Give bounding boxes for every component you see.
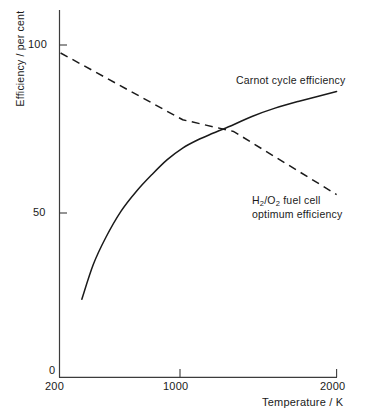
- x-axis-label: Temperature / K: [262, 396, 343, 410]
- annotation-fuelcell-h: H: [252, 194, 260, 206]
- x-tick-label-2000: 2000: [320, 380, 345, 394]
- annotation-carnot-cycle-efficiency: Carnot cycle efficiency: [236, 74, 345, 87]
- y-axis-label: Efficiency / per cent: [14, 0, 27, 124]
- annotation-fuelcell-rest: fuel cell: [280, 194, 321, 206]
- chart-figure: Efficiency / per cent Temperature / K 10…: [0, 0, 371, 417]
- annotation-fuelcell-line1: H2/O2 fuel cell: [252, 194, 321, 206]
- y-tick-label-50: 50: [33, 206, 46, 220]
- y-tick-label-100: 100: [28, 38, 47, 52]
- annotation-fuelcell-slash-o: /O: [264, 194, 276, 206]
- x-tick-label-1000: 1000: [163, 380, 188, 394]
- annotation-fuel-cell-optimum-efficiency: H2/O2 fuel cell optimum efficiency: [252, 194, 342, 221]
- y-tick-label-0: 0: [49, 364, 55, 378]
- x-tick-label-200: 200: [45, 380, 64, 394]
- annotation-fuelcell-line2: optimum efficiency: [252, 208, 342, 221]
